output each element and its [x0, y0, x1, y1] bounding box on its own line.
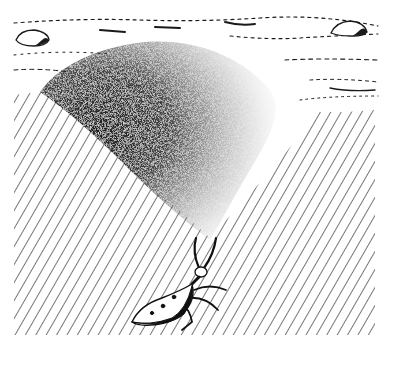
pebble-right	[331, 21, 367, 36]
head	[195, 267, 207, 277]
pebble-left	[16, 30, 49, 46]
antlion-illustration	[0, 0, 393, 378]
